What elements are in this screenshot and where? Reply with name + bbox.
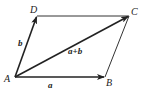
point-label-d: D [29,4,38,15]
vector-label-a: a [48,80,53,90]
point-label-c: C [131,6,138,17]
point-label-a: A [3,73,11,84]
vector-label-a-plus-b: a+b [68,46,83,56]
point-label-b: B [106,77,112,88]
edge-bc [105,16,129,77]
parallelogram-diagram: A B C D a b a+b [0,0,145,100]
vector-label-b: b [18,38,23,48]
